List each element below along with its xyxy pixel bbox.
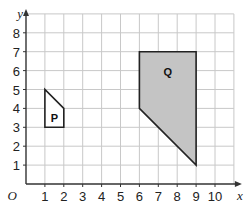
x-tick-label: 7 [155, 189, 162, 204]
y-tick-label: 2 [13, 139, 20, 154]
x-tick-label: 8 [174, 189, 181, 204]
y-tick-label: 4 [13, 101, 20, 116]
x-tick-label: 9 [192, 189, 199, 204]
origin-label: O [8, 188, 18, 203]
x-tick-label: 3 [79, 189, 86, 204]
shape-label-p: P [51, 112, 58, 124]
y-tick-label: 1 [13, 158, 20, 173]
x-axis-arrow-icon [235, 181, 242, 187]
x-tick-label: 1 [41, 189, 48, 204]
y-axis-label: y [15, 6, 23, 21]
x-tick-label: 2 [60, 189, 67, 204]
coordinate-grid-diagram: PQ1234567891012345678Oxy [0, 0, 247, 207]
y-tick-label: 7 [13, 45, 20, 60]
shape-label-q: Q [163, 66, 172, 78]
y-tick-label: 5 [13, 83, 20, 98]
y-tick-label: 3 [13, 120, 20, 135]
x-tick-label: 5 [117, 189, 124, 204]
y-tick-label: 6 [13, 64, 20, 79]
x-tick-label: 6 [136, 189, 143, 204]
x-tick-label: 10 [208, 189, 222, 204]
y-axis-arrow-icon [23, 9, 29, 16]
x-tick-label: 4 [98, 189, 105, 204]
x-axis-label: x [236, 188, 243, 203]
y-tick-label: 8 [13, 26, 20, 41]
